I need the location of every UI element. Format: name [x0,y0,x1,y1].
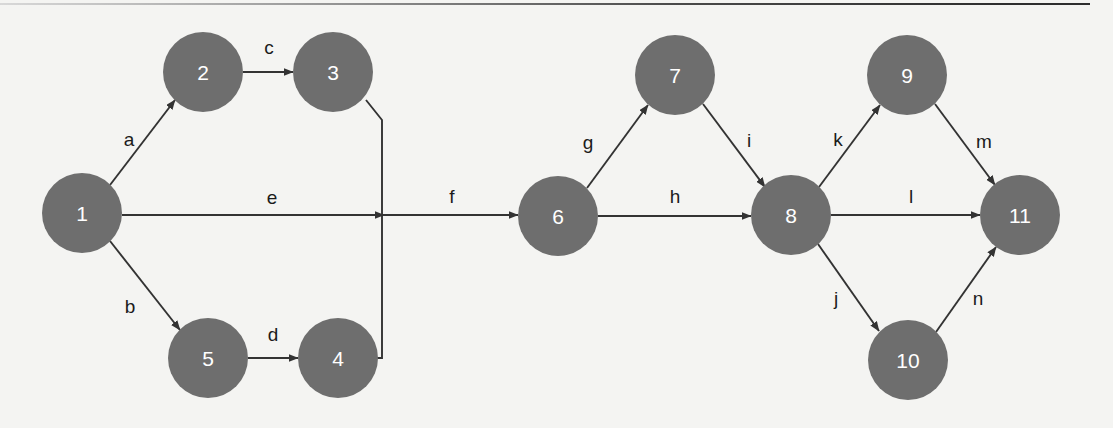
edge-label-a: a [124,129,135,150]
edge-label-f: f [449,186,455,207]
node-2[interactable]: 2 [163,32,243,112]
node-4[interactable]: 4 [298,318,378,398]
node-9[interactable]: 9 [867,35,947,115]
edge-label-b: b [125,296,136,317]
node-11[interactable]: 11 [980,175,1060,255]
node-10[interactable]: 10 [868,320,948,400]
edge-label-e: e [267,187,278,208]
node-8[interactable]: 8 [751,175,831,255]
edge-b-line [110,241,180,330]
edge-label-m: m [976,131,992,152]
connector-rail [364,100,382,358]
node-layer: 1 2 3 4 5 6 [42,32,1060,400]
directed-graph: 1 2 3 4 5 6 [0,0,1113,428]
edge-j-line [818,244,879,331]
edge-a-line [110,100,175,185]
edge-i-line [703,104,765,187]
edge-g-line [587,105,648,188]
edge-label-d: d [268,324,279,345]
node-7[interactable]: 7 [635,35,715,115]
node-3[interactable]: 3 [293,32,373,112]
edge-label-i: i [747,130,751,151]
edge-k-line [819,105,880,187]
edge-label-h: h [670,186,681,207]
diagram-canvas: 1 2 3 4 5 6 [0,0,1113,428]
edge-label-n: n [973,288,984,309]
node-1[interactable]: 1 [42,173,122,253]
node-5[interactable]: 5 [168,318,248,398]
edge-label-k: k [833,129,843,150]
edge-label-c: c [264,37,274,58]
edge-label-g: g [583,132,594,153]
node-6[interactable]: 6 [518,176,598,256]
edge-label-j: j [833,288,838,309]
edge-n-line [936,247,996,332]
edge-label-l: l [909,186,913,207]
